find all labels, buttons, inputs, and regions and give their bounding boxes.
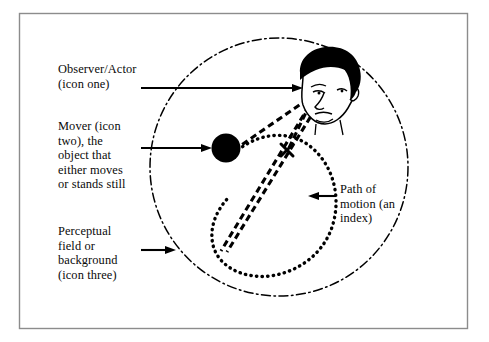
figure-page: Observer/Actor (icon one) Mover (icon tw… bbox=[0, 0, 489, 342]
label-observer-actor: Observer/Actor (icon one) bbox=[58, 62, 136, 91]
label-perceptual-field: Perceptual field or background (icon thr… bbox=[58, 224, 118, 282]
label-path-of-motion: Path of motion (an index) bbox=[340, 182, 395, 226]
label-mover: Mover (icon two), the object that either… bbox=[58, 119, 126, 192]
filled-circle-icon bbox=[212, 134, 241, 163]
